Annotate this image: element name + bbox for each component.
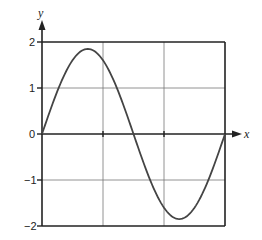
sine-chart: 2 1 0 −1 −2 y x [0, 0, 262, 240]
y-tick-minus-1: −1 [24, 174, 37, 186]
y-tick-0: 0 [29, 128, 35, 140]
y-axis-label: y [37, 6, 44, 20]
y-tick-2: 2 [29, 36, 35, 48]
y-tick-1: 1 [29, 82, 35, 94]
x-axis-label: x [243, 127, 250, 141]
y-tick-minus-2: −2 [24, 220, 37, 232]
y-axis-arrow-icon [39, 20, 46, 30]
x-axis-arrow-icon [232, 131, 242, 138]
